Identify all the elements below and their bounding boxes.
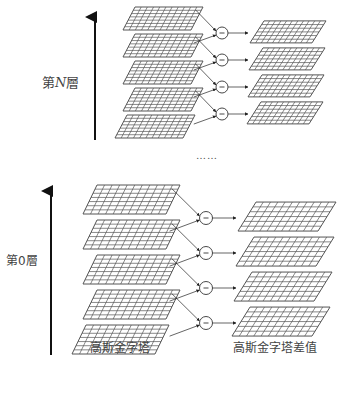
- difference-layer: [234, 272, 332, 301]
- gaussian-layer: [115, 115, 195, 138]
- level-0-label: 第0層: [6, 251, 38, 268]
- difference-layer: [236, 237, 334, 266]
- gaussian-layer: [83, 290, 180, 319]
- difference-layer: [247, 102, 323, 124]
- gaussian-layer: [83, 255, 180, 284]
- difference-layer: [250, 21, 326, 43]
- scale-axis-arrows: [51, 17, 95, 355]
- gaussian-layer: [123, 7, 203, 30]
- subtract-operator-icon: [216, 27, 228, 39]
- difference-layer: [238, 202, 336, 231]
- subtraction-links: [170, 10, 248, 336]
- pyramid-grids: [72, 7, 336, 354]
- subtract-operator-icon: [200, 282, 213, 295]
- dog-pyramid-caption: 高斯金字塔差值: [233, 338, 317, 355]
- subtract-operator-icon: [216, 81, 228, 93]
- subtract-operator-icon: [200, 317, 213, 330]
- subtract-operator-icon: [216, 108, 228, 120]
- subtract-operator-icon: [200, 247, 213, 260]
- gaussian-pyramid-caption: 高斯金字塔: [90, 338, 150, 355]
- gaussian-layer: [83, 220, 180, 249]
- dog-pyramid-diagram: [0, 0, 339, 395]
- gaussian-layer: [83, 185, 180, 214]
- gaussian-layer: [123, 61, 203, 84]
- subtract-operator-icon: [200, 212, 213, 225]
- subtract-operator-icon: [216, 54, 228, 66]
- gaussian-layer: [123, 88, 203, 111]
- difference-layer: [232, 307, 330, 336]
- difference-layer: [248, 75, 324, 97]
- level-n-label: 第N層: [42, 72, 79, 91]
- gaussian-layer: [123, 34, 203, 57]
- ellipsis: ……: [196, 150, 218, 161]
- difference-layer: [249, 48, 325, 70]
